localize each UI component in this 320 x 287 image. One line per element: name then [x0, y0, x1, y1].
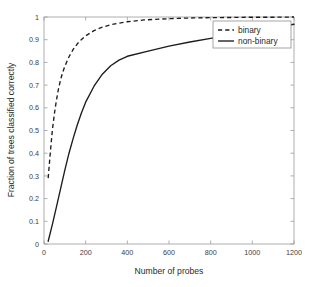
- y-tick-label: 0.9: [29, 35, 39, 44]
- plot-area-background: [44, 17, 294, 244]
- legend-label-binary: binary: [238, 25, 262, 35]
- chart-legend[interactable]: binary non-binary: [213, 21, 291, 48]
- x-tick-label: 1200: [286, 248, 302, 257]
- y-tick-label: 0.8: [29, 58, 39, 67]
- figure-canvas: 020040060080010001200 00.10.20.30.40.50.…: [0, 0, 320, 287]
- y-tick-label: 1: [35, 13, 39, 22]
- y-tick-label: 0.6: [29, 103, 39, 112]
- y-tick-label: 0.3: [29, 172, 39, 181]
- x-tick-label: 0: [42, 248, 46, 257]
- y-tick-label: 0.5: [29, 126, 39, 135]
- x-axis-title: Number of probes: [135, 266, 204, 276]
- x-axis-tick-labels: 020040060080010001200: [42, 248, 302, 257]
- x-tick-label: 200: [80, 248, 92, 257]
- y-tick-label: 0.7: [29, 81, 39, 90]
- y-axis-title: Fraction of trees classified correctly: [6, 62, 16, 197]
- legend-label-non-binary: non-binary: [238, 36, 278, 46]
- y-axis-tick-labels: 00.10.20.30.40.50.60.70.80.91: [29, 13, 39, 249]
- x-tick-label: 800: [205, 248, 217, 257]
- chart-plot: 020040060080010001200 00.10.20.30.40.50.…: [0, 0, 320, 287]
- y-tick-label: 0.1: [29, 217, 39, 226]
- x-tick-label: 600: [163, 248, 175, 257]
- y-tick-label: 0.4: [29, 149, 39, 158]
- y-tick-label: 0: [35, 240, 39, 249]
- x-tick-label: 400: [121, 248, 133, 257]
- y-tick-label: 0.2: [29, 194, 39, 203]
- x-tick-label: 1000: [244, 248, 260, 257]
